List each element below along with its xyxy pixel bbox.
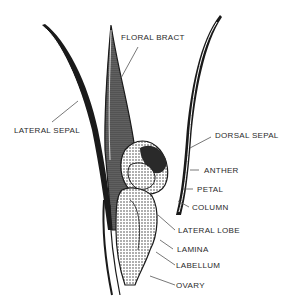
leader-dorsal-sepal	[190, 137, 211, 148]
label-anther: ANTHER	[204, 166, 239, 175]
label-petal: PETAL	[197, 185, 223, 194]
leader-floral-bract	[121, 47, 138, 78]
leader-lateral-sepal	[52, 101, 78, 122]
label-lateral-lobe: LATERAL LOBE	[178, 226, 240, 235]
label-ovary: OVARY	[176, 281, 205, 290]
label-lateral-sepal: LATERAL SEPAL	[14, 126, 80, 135]
label-dorsal-sepal: DORSAL SEPAL	[215, 131, 279, 140]
label-lamina: LAMINA	[177, 245, 209, 254]
orchid-illustration	[0, 0, 281, 304]
leader-lamina	[160, 240, 173, 249]
flower-head-shape	[121, 141, 168, 195]
leader-labellum	[156, 252, 175, 265]
leader-ovary	[150, 276, 175, 285]
label-column: COLUMN	[192, 203, 228, 212]
leader-lateral-lobe	[158, 215, 175, 230]
orchid-diagram: FLORAL BRACT LATERAL SEPAL DORSAL SEPAL …	[0, 0, 281, 304]
label-floral-bract: FLORAL BRACT	[121, 33, 185, 42]
label-labellum: LABELLUM	[176, 261, 220, 270]
